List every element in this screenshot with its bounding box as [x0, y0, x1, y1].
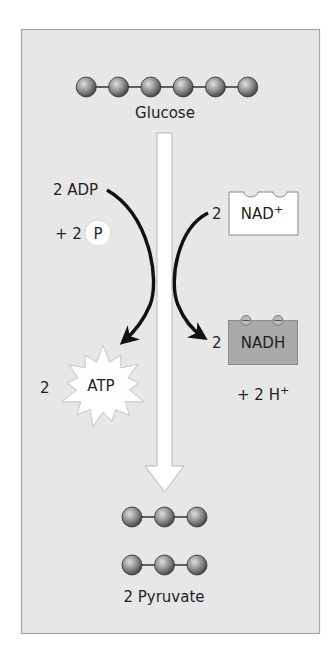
nad-coefficient: 2	[212, 205, 222, 223]
glycolysis-diagram: Glucose 2 ADP + 2 P 2 ATP 2 NAD+ 2	[0, 0, 332, 663]
diagram-canvas: Glucose 2 ADP + 2 P 2 ATP 2 NAD+ 2	[0, 0, 332, 663]
glucose-label: Glucose	[135, 104, 195, 122]
atp-label: ATP	[87, 377, 114, 395]
pyruvate-molecule	[122, 507, 207, 527]
pyruvate-label: 2 Pyruvate	[123, 588, 204, 606]
nadh-label: NADH	[241, 334, 285, 352]
pyruvate-molecule	[122, 555, 207, 575]
carbon-atom	[76, 77, 96, 97]
carbon-atom	[155, 555, 175, 575]
carbon-atom	[187, 507, 207, 527]
carbon-atom	[238, 77, 258, 97]
carbon-atom	[173, 77, 193, 97]
carbon-atom	[205, 77, 225, 97]
atp-coefficient: 2	[40, 379, 50, 397]
carbon-atom	[122, 507, 142, 527]
carbon-atom	[141, 77, 161, 97]
proton-superscript: +	[280, 384, 289, 397]
nad-label-text: NAD	[241, 205, 274, 223]
carbon-atom	[187, 555, 207, 575]
carbon-atom	[109, 77, 129, 97]
carbon-atom	[155, 507, 175, 527]
phosphate-label: P	[93, 225, 102, 243]
nad-superscript: +	[274, 203, 283, 216]
phosphate-coefficient: + 2	[55, 225, 82, 243]
carbon-atom	[122, 555, 142, 575]
proton-label-text: + 2 H	[237, 386, 280, 404]
nadh-coefficient: 2	[212, 334, 222, 352]
adp-label: 2 ADP	[53, 181, 98, 199]
